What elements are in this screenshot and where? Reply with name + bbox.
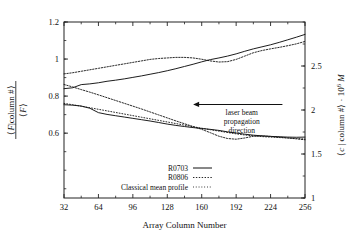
x-axis-title: Array Column Number (143, 220, 227, 230)
legend-label-classical-mean-profile: Classical mean profile (121, 183, 189, 192)
y-tick-label-left: 0.8 (48, 91, 59, 101)
annotation-line-3: direction (228, 126, 255, 135)
chart-svg: 326496128160192224256 0.60.811.2 11.522.… (0, 0, 355, 242)
y-tick-label-right: 1 (311, 193, 315, 203)
y-axis-title-left-numerator: ⟨F|column #⟩ (6, 85, 16, 134)
y-tick-label-left: 1 (55, 54, 59, 64)
x-tick-label: 32 (60, 202, 69, 212)
x-tick-label: 192 (230, 202, 243, 212)
x-tick-label: 64 (94, 202, 103, 212)
y-tick-label-right: 2.5 (311, 61, 322, 71)
legend-label-r0703: R0703 (168, 164, 188, 173)
x-tick-label: 128 (161, 202, 174, 212)
x-tick-label: 256 (299, 202, 312, 212)
legend-label-r0806: R0806 (168, 173, 188, 182)
y-axis-title-left-denominator: ⟨F⟩ (18, 103, 28, 117)
x-tick-label: 224 (264, 202, 278, 212)
x-tick-label: 160 (195, 202, 208, 212)
x-tick-label: 96 (129, 202, 138, 212)
y-tick-label-left: 1.2 (48, 17, 59, 27)
annotation-line-1: laser beam (226, 108, 258, 117)
y-tick-label-left: 0.6 (48, 128, 59, 138)
y-tick-label-right: 2 (311, 105, 315, 115)
figure-container: 326496128160192224256 0.60.811.2 11.522.… (0, 0, 355, 242)
annotation-line-2: propagation (224, 117, 260, 126)
y-tick-label-right: 1.5 (311, 149, 322, 159)
